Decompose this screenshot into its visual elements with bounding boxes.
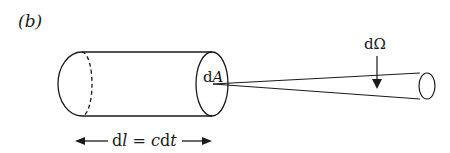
cylinder-left-end-front (58, 52, 82, 116)
cylinder-left-end-hidden (82, 52, 92, 116)
cone-lower-edge (213, 84, 420, 99)
cone-upper-edge (213, 73, 420, 84)
solid-angle-cone (213, 73, 435, 99)
length-left-arrow-icon (75, 137, 108, 145)
length-right-arrow-icon (182, 137, 212, 145)
radiation-cylinder-diagram: (b) dA dΩ dl = cdt (0, 0, 450, 153)
cone-end-ellipse (419, 73, 435, 99)
panel-label: (b) (18, 11, 42, 31)
solid-angle-arrow-icon (372, 56, 382, 89)
length-label: dl = cdt (112, 131, 177, 150)
solid-angle-label: dΩ (364, 35, 386, 53)
